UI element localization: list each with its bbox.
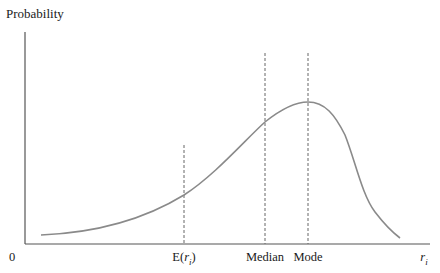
distribution-curve	[41, 102, 400, 238]
x-axis-sub: i	[425, 257, 428, 267]
expected-prefix: E(	[172, 250, 184, 264]
median-label: Median	[246, 250, 284, 265]
expected-close: )	[192, 250, 196, 264]
chart-plot	[0, 0, 440, 273]
mode-label: Mode	[293, 250, 322, 265]
x-axis-label: ri	[420, 250, 427, 267]
expected-return-label: E(ri)	[172, 250, 195, 267]
origin-label: 0	[9, 250, 15, 265]
